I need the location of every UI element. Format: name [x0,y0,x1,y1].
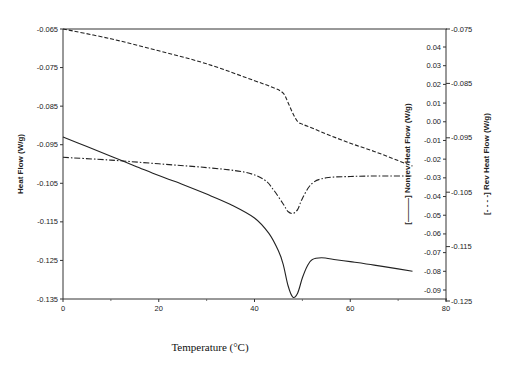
y-axis-title: Heat Flow (W/g) [16,134,25,194]
y3-tick-label: -0.095 [451,133,472,142]
y3-tick-label: -0.125 [451,297,472,306]
y-tick-label: -0.135 [37,295,58,304]
y3-tick-label: -0.105 [451,188,472,197]
y-tick-label: -0.115 [37,217,58,226]
y-tick-label: -0.105 [37,179,58,188]
x-tick-label: 0 [61,304,65,313]
y2-tick-label: 0.00 [426,117,441,126]
y2-tick-label: -0.03 [424,173,441,182]
x-axis-title: Temperature (°C) [171,341,249,354]
y3-tick-label: -0.115 [451,242,472,251]
x-tick-label: 40 [250,304,258,313]
tick-marks [60,29,450,302]
nonrev-heat-flow-curve [63,157,413,213]
x-tick-label: 80 [442,304,450,313]
plot-frame [63,29,447,301]
y-tick-label: -0.085 [37,102,58,111]
y2-tick-label: 0.01 [426,99,441,108]
y2-tick-label: -0.07 [424,248,441,257]
y3-tick-label: -0.085 [451,79,472,88]
dsc-chart: 020406080-0.065-0.075-0.085-0.095-0.105-… [0,0,505,366]
y2-tick-label: -0.04 [424,192,441,201]
y2-axis-title: [———] Nonrev Heat Flow (W/g) [403,103,412,225]
x-tick-label: 20 [155,304,163,313]
y2-tick-label: -0.08 [424,267,441,276]
y2-tick-label: -0.09 [424,286,441,295]
y2-tick-label: -0.01 [424,136,441,145]
y2-tick-label: -0.06 [424,229,441,238]
heat-flow-curve [63,137,413,298]
x-tick-label: 60 [346,304,354,313]
y3-tick-label: -0.075 [451,25,472,34]
y-tick-label: -0.075 [37,63,58,72]
y-tick-label: -0.125 [37,256,58,265]
y2-tick-label: -0.05 [424,211,441,220]
y-tick-label: -0.095 [37,140,58,149]
y2-tick-label: 0.02 [426,80,441,89]
y3-axis-title: [- - - -] Rev Heat Flow (W/g) [482,113,491,215]
rev-heat-flow-curve [63,29,413,166]
y2-tick-label: -0.02 [424,155,441,164]
curves [63,29,413,298]
y2-tick-label: 0.04 [426,43,441,52]
y-tick-label: -0.065 [37,25,58,34]
y2-tick-label: 0.03 [426,61,441,70]
